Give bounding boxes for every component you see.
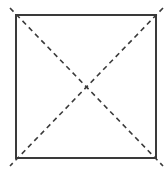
square-diagonals-diagram — [0, 0, 168, 169]
background — [0, 0, 168, 169]
